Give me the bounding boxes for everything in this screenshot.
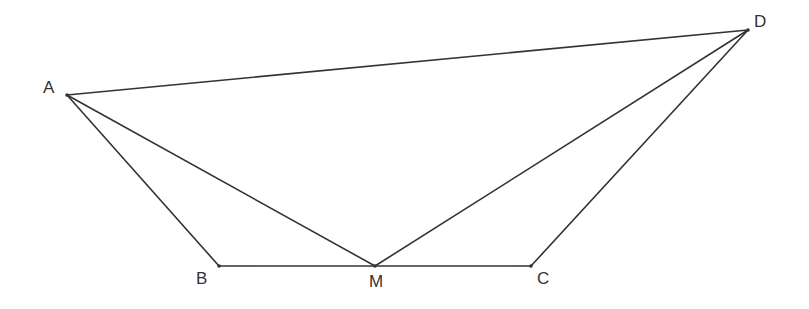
label-d: D bbox=[754, 12, 766, 31]
point-a bbox=[65, 93, 69, 97]
point-c bbox=[529, 264, 533, 268]
point-m bbox=[373, 264, 377, 268]
label-c: C bbox=[537, 269, 549, 288]
geometry-diagram: A B M C D bbox=[0, 0, 809, 309]
points bbox=[65, 28, 750, 268]
point-b bbox=[217, 264, 221, 268]
segment-am bbox=[67, 95, 375, 266]
label-m: M bbox=[369, 272, 383, 291]
segment-md bbox=[375, 30, 748, 266]
point-d bbox=[746, 28, 750, 32]
segments bbox=[67, 30, 748, 266]
labels: A B M C D bbox=[43, 12, 766, 291]
label-b: B bbox=[196, 269, 207, 288]
label-a: A bbox=[43, 78, 55, 97]
segment-ad bbox=[67, 30, 748, 95]
segment-cd bbox=[531, 30, 748, 266]
segment-ab bbox=[67, 95, 219, 266]
